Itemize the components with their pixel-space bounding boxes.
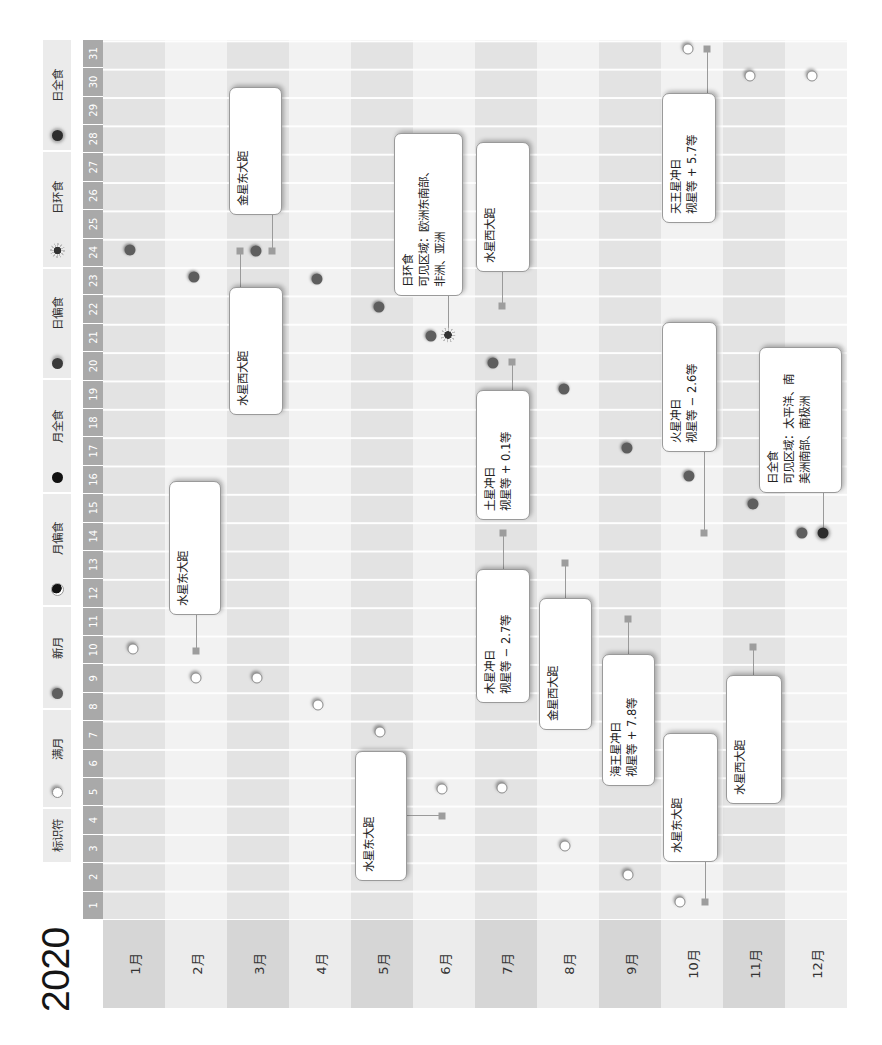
event-callout: 木星冲日 视星等 − 2.7等: [476, 569, 530, 703]
new-moon-icon: [426, 331, 437, 342]
full-moon-icon: [437, 784, 448, 795]
callout-text: 水星西大距: [235, 296, 251, 406]
event-callout: 土星冲日 视星等 + 0.1等: [476, 390, 530, 520]
full-moon-icon: [745, 71, 756, 82]
event-marker-icon: [269, 248, 276, 255]
connector-line: [196, 615, 197, 651]
event-callout: 火星冲日 视星等 − 2.6等: [662, 322, 717, 452]
events-layer: 水星东大距 金星东大距 水星西大距 水星东大距 日环食 可见区域：欧洲东南部、 …: [0, 0, 882, 1045]
event-marker-icon: [193, 648, 200, 655]
full-moon-icon: [675, 897, 686, 908]
event-marker-icon: [499, 303, 506, 310]
connector-line: [705, 862, 706, 902]
new-moon-icon: [622, 443, 633, 454]
callout-text: 火星冲日: [668, 331, 684, 443]
event-callout: 水星东大距: [663, 733, 718, 862]
event-marker-icon: [702, 899, 709, 906]
event-callout: 日环食 可见区域：欧洲东南部、 非洲、亚洲: [394, 133, 463, 296]
event-callout: 水星东大距: [355, 751, 407, 881]
event-callout: 水星西大距: [726, 675, 782, 804]
event-callout: 水星西大距: [476, 142, 530, 272]
callout-text: 非洲、亚洲: [432, 142, 448, 287]
connector-line: [502, 272, 503, 306]
connector-line: [628, 619, 629, 654]
event-marker-icon: [701, 530, 708, 537]
event-callout: 金星东大距: [229, 87, 282, 215]
event-callout: 日全食 可见区域：太平洋、南 美洲南部、南极洲: [759, 347, 842, 493]
callout-text: 水星东大距: [669, 742, 685, 853]
callout-text: 木星冲日: [482, 578, 498, 694]
full-moon-icon: [497, 783, 508, 794]
callout-text: 可见区域：太平洋、南: [781, 356, 797, 484]
callout-text: 视星等 + 0.1等: [498, 399, 514, 511]
callout-text: 视星等 − 2.7等: [498, 578, 514, 694]
event-callout: 水星西大距: [229, 287, 283, 415]
connector-line: [407, 815, 442, 816]
connector-line: [565, 563, 566, 598]
callout-text: 美洲南部、南极洲: [797, 356, 813, 484]
full-moon-icon: [375, 727, 386, 738]
event-callout: 天王星冲日 视星等 + 5.7等: [662, 93, 716, 223]
callout-text: 金星西大距: [545, 607, 561, 721]
event-callout: 海王星冲日 视星等 + 7.8等: [602, 654, 655, 786]
full-moon-icon: [128, 644, 139, 655]
callout-text: 视星等 + 5.7等: [684, 102, 700, 214]
full-moon-icon: [252, 673, 263, 684]
full-moon-icon: [623, 870, 634, 881]
callout-text: 可见区域：欧洲东南部、: [416, 142, 432, 287]
connector-line: [240, 251, 241, 287]
new-moon-icon: [488, 358, 499, 369]
full-moon-icon: [683, 44, 694, 55]
full-moon-icon: [807, 71, 818, 82]
callout-text: 水星东大距: [361, 760, 377, 872]
annular-solar-eclipse-icon: [441, 328, 456, 343]
connector-line: [753, 647, 754, 675]
callout-text: 日环食: [400, 142, 416, 287]
event-marker-icon: [704, 46, 711, 53]
callout-text: 视星等 + 7.8等: [624, 663, 640, 777]
full-moon-icon: [313, 700, 324, 711]
connector-line: [704, 452, 705, 533]
connector-line: [272, 215, 273, 251]
new-moon-icon: [559, 384, 570, 395]
event-marker-icon: [237, 248, 244, 255]
full-moon-icon: [191, 673, 202, 684]
callout-text: 日全食: [765, 356, 781, 484]
calendar-sheet: 2020 标识符 满月 新月 月偏食 月全食 日偏食 日环食: [0, 0, 882, 1045]
callout-text: 水星西大距: [482, 151, 498, 263]
new-moon-icon: [374, 302, 385, 313]
new-moon-icon: [748, 499, 759, 510]
event-marker-icon: [439, 813, 446, 820]
callout-text: 水星东大距: [175, 490, 191, 606]
callout-text: 土星冲日: [482, 399, 498, 511]
connector-line: [707, 49, 708, 93]
connector-line: [512, 362, 513, 390]
total-solar-eclipse-icon: [818, 528, 829, 539]
callout-text: 水星西大距: [732, 684, 748, 795]
event-marker-icon: [562, 560, 569, 567]
event-callout: 金星西大距: [539, 598, 592, 730]
event-marker-icon: [500, 530, 507, 537]
new-moon-icon: [684, 471, 695, 482]
callout-text: 视星等 − 2.6等: [684, 331, 700, 443]
new-moon-icon: [251, 246, 262, 257]
callout-text: 金星东大距: [235, 96, 251, 206]
new-moon-icon: [312, 274, 323, 285]
callout-text: 天王星冲日: [668, 102, 684, 214]
new-moon-icon: [125, 245, 136, 256]
callout-text: 海王星冲日: [608, 663, 624, 777]
full-moon-icon: [560, 841, 571, 852]
connector-line: [503, 533, 504, 569]
event-marker-icon: [750, 644, 757, 651]
new-moon-icon: [797, 528, 808, 539]
new-moon-icon: [189, 272, 200, 283]
event-callout: 水星东大距: [169, 481, 221, 615]
event-marker-icon: [509, 359, 516, 366]
event-marker-icon: [625, 616, 632, 623]
